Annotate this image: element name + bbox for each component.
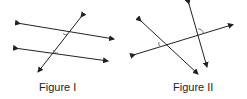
parallel-line-bottom <box>18 49 108 62</box>
angle-arc-top <box>63 34 68 35</box>
figure-2-label: Figure II <box>173 81 213 93</box>
parallel-line-top <box>20 24 114 40</box>
figure-2 <box>135 4 233 74</box>
figure-1 <box>18 17 114 72</box>
line-b <box>141 21 198 74</box>
figure-1-label: Figure I <box>39 81 76 93</box>
angle-arc-right <box>198 29 204 34</box>
transversal-line <box>38 17 81 72</box>
angle-arc-bottom <box>54 50 59 53</box>
line-c <box>189 4 207 67</box>
